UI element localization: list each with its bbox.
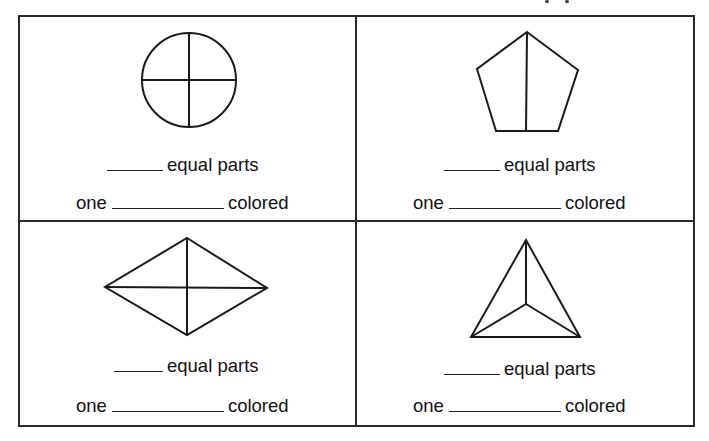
one-label: one [413, 395, 444, 416]
parts-answer-blank[interactable] [444, 373, 500, 375]
colored-line: onecolored [413, 397, 626, 416]
fraction-answer-blank[interactable] [449, 410, 561, 412]
parts-line: equal parts [444, 360, 596, 379]
cell-triangle: equal parts onecolored [0, 0, 709, 441]
parts-label: equal parts [504, 358, 596, 379]
colored-label: colored [565, 395, 626, 416]
triangle-thirds-icon [0, 0, 709, 441]
